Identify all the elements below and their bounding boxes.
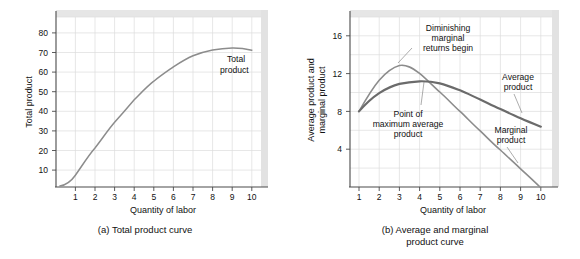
x-tick-label: 2 — [93, 192, 98, 202]
plot-right-shadow — [552, 10, 559, 187]
x-tick-marks — [359, 187, 541, 191]
max-average-product-leader-line — [421, 82, 424, 105]
x-tick-label: 8 — [210, 192, 215, 202]
y-tick-label: 10 — [39, 165, 49, 175]
y-tick-marks — [346, 36, 350, 149]
y-tick-label: 30 — [39, 126, 49, 136]
y-tick-label: 8 — [337, 107, 342, 117]
y-tick-labels: 4 8 12 16 — [333, 31, 343, 154]
x-tick-label: 1 — [73, 192, 78, 202]
plot-top-band — [56, 10, 261, 17]
diminishing-returns-label-line3: returns begin — [423, 43, 473, 53]
y-tick-label: 60 — [39, 67, 49, 77]
y-tick-label: 16 — [333, 31, 343, 41]
panel-b-caption-line1: (b) Average and marginal — [290, 224, 580, 236]
y-tick-label: 50 — [39, 87, 49, 97]
vertical-gridlines — [75, 17, 251, 187]
x-axis-title: Quantity of labor — [130, 205, 196, 215]
y-axis-title-line2: marginal product — [317, 66, 327, 134]
y-tick-label: 70 — [39, 48, 49, 58]
average-marginal-product-chart: 4 8 12 16 1 2 3 — [290, 0, 580, 220]
average-product-label-line1: Average — [502, 72, 534, 82]
economics-figure-total-average-marginal-product: 10 20 30 40 50 60 70 80 — [0, 0, 580, 259]
x-tick-label: 9 — [230, 192, 235, 202]
x-tick-label: 3 — [397, 192, 402, 202]
y-axis-title: Total product — [24, 76, 34, 128]
marginal-product-label-line2: product — [497, 135, 526, 145]
diminishing-returns-label-line1: Diminishing — [426, 23, 471, 33]
panel-average-marginal-product: 4 8 12 16 1 2 3 — [290, 0, 580, 259]
plot-right-shadow — [261, 10, 268, 187]
panel-b-caption-line2: product curve — [290, 236, 580, 248]
horizontal-gridlines — [56, 17, 261, 170]
y-tick-label: 80 — [39, 28, 49, 38]
total-product-chart: 10 20 30 40 50 60 70 80 — [0, 0, 290, 220]
marginal-product-label-line1: Marginal — [495, 125, 528, 135]
x-tick-label: 6 — [458, 192, 463, 202]
x-tick-label: 7 — [478, 192, 483, 202]
x-tick-label: 4 — [132, 192, 137, 202]
x-tick-label: 1 — [357, 192, 362, 202]
diminishing-returns-label-line2: marginal — [432, 33, 465, 43]
total-product-label: Total — [227, 54, 245, 64]
y-tick-label: 40 — [39, 106, 49, 116]
x-tick-marks — [75, 187, 251, 191]
total-product-label-line2: product — [220, 65, 249, 75]
diminishing-returns-leader-line — [398, 48, 412, 63]
x-tick-label: 4 — [417, 192, 422, 202]
max-average-product-label-line1: Point of — [393, 109, 423, 119]
max-average-product-label-line3: product — [394, 129, 423, 139]
panel-b-caption: (b) Average and marginal product curve — [290, 224, 580, 248]
x-tick-label: 6 — [171, 192, 176, 202]
x-tick-label: 5 — [151, 192, 156, 202]
y-axis-title-line1: Average product and — [306, 58, 316, 141]
y-tick-labels: 10 20 30 40 50 60 70 80 — [39, 28, 49, 175]
average-product-label-line2: product — [504, 82, 533, 92]
x-tick-label: 2 — [377, 192, 382, 202]
panel-total-product: 10 20 30 40 50 60 70 80 — [0, 0, 290, 259]
y-tick-label: 20 — [39, 146, 49, 156]
x-tick-label: 8 — [498, 192, 503, 202]
panel-a-caption: (a) Total product curve — [0, 224, 290, 236]
y-tick-label: 4 — [337, 144, 342, 154]
x-tick-label: 5 — [437, 192, 442, 202]
x-tick-labels: 1 2 3 4 5 6 7 8 9 10 — [73, 192, 257, 202]
x-tick-label: 10 — [247, 192, 257, 202]
x-tick-label: 7 — [191, 192, 196, 202]
x-axis-title: Quantity of labor — [420, 205, 486, 215]
x-tick-label: 9 — [518, 192, 523, 202]
x-tick-label: 3 — [112, 192, 117, 202]
max-average-product-label-line2: maximum average — [373, 119, 444, 129]
y-tick-marks — [52, 33, 56, 170]
x-tick-label: 10 — [536, 192, 546, 202]
y-tick-label: 12 — [333, 69, 343, 79]
plot-top-band — [350, 10, 552, 17]
x-tick-labels: 1 2 3 4 5 6 7 8 9 10 — [357, 192, 546, 202]
